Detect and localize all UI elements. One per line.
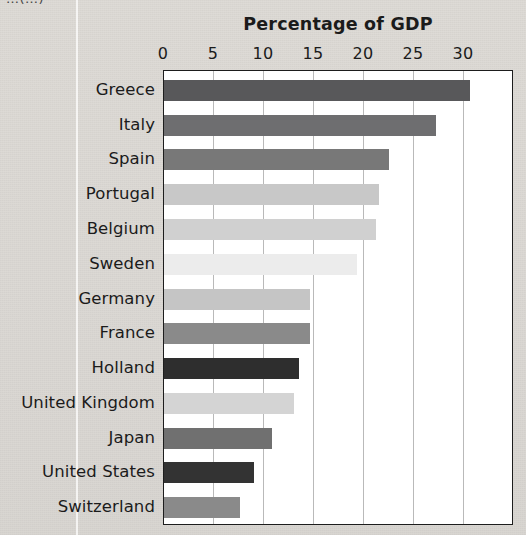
bar xyxy=(164,358,299,379)
gridline xyxy=(463,71,464,524)
gridline xyxy=(313,71,314,524)
bar xyxy=(164,219,376,240)
bar xyxy=(164,80,470,101)
bar xyxy=(164,115,436,136)
category-label: Portugal xyxy=(0,183,155,204)
category-label: Spain xyxy=(0,148,155,169)
category-label: Sweden xyxy=(0,253,155,274)
category-label: Belgium xyxy=(0,218,155,239)
bar xyxy=(164,184,379,205)
category-label: Germany xyxy=(0,288,155,309)
x-tick-label: 10 xyxy=(253,44,274,63)
bar xyxy=(164,428,272,449)
x-tick-label: 15 xyxy=(303,44,324,63)
category-label: Holland xyxy=(0,357,155,378)
bar xyxy=(164,497,240,518)
x-tick-label: 5 xyxy=(208,44,218,63)
plot-area xyxy=(163,70,513,525)
chart-title: Percentage of GDP xyxy=(163,14,513,34)
gridline xyxy=(413,71,414,524)
x-tick-label: 0 xyxy=(158,44,168,63)
chart-page: …(…) Percentage of GDP 051015202530 Gree… xyxy=(0,0,526,535)
bar xyxy=(164,289,310,310)
category-label: Japan xyxy=(0,427,155,448)
bar xyxy=(164,393,294,414)
x-tick-label: 30 xyxy=(453,44,474,63)
category-label: Switzerland xyxy=(0,496,155,517)
bar xyxy=(164,149,389,170)
bar xyxy=(164,462,254,483)
x-tick-label: 20 xyxy=(353,44,374,63)
x-tick-label: 25 xyxy=(403,44,424,63)
category-label: United States xyxy=(0,461,155,482)
category-label: Greece xyxy=(0,79,155,100)
bar xyxy=(164,323,310,344)
gridline xyxy=(363,71,364,524)
category-label: Italy xyxy=(0,114,155,135)
category-label: United Kingdom xyxy=(0,392,155,413)
bar xyxy=(164,254,357,275)
category-label: France xyxy=(0,322,155,343)
clipped-header-text: …(…) xyxy=(6,0,44,6)
